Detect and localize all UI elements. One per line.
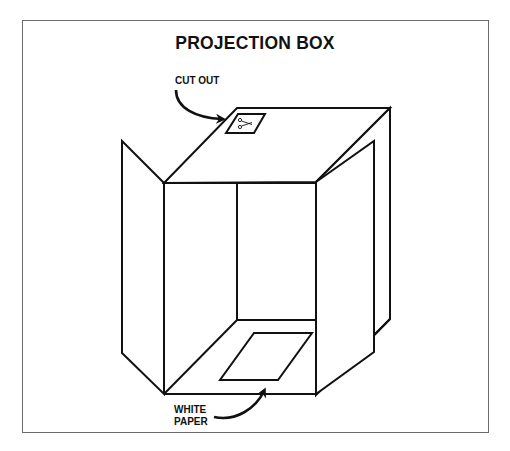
white-paper xyxy=(220,333,312,380)
right-flap xyxy=(316,141,374,394)
white-paper-arrow xyxy=(214,391,264,418)
interior-floor-left-edge xyxy=(164,320,237,394)
projection-box-drawing xyxy=(0,0,510,451)
left-flap xyxy=(122,141,164,394)
cut-out-arrow xyxy=(176,90,222,119)
